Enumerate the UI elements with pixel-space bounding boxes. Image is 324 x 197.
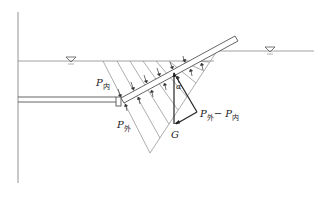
horizontal-slab bbox=[18, 97, 121, 106]
label-p-diff-sub1: 外 bbox=[207, 114, 214, 122]
label-p-diff-sep: − bbox=[214, 108, 226, 119]
label-alpha: α bbox=[176, 83, 181, 91]
label-p-outer-main: P bbox=[117, 119, 124, 130]
hinge-block bbox=[116, 97, 121, 106]
label-p-inner-sub: 内 bbox=[103, 83, 110, 91]
water-level-left-icon bbox=[66, 57, 76, 64]
label-g: G bbox=[171, 130, 179, 140]
label-p-inner-main: P bbox=[96, 77, 103, 88]
label-p-diff-sub2: 内 bbox=[232, 114, 239, 122]
water-level-right-icon bbox=[265, 47, 275, 54]
force-triangle bbox=[173, 72, 198, 124]
label-p-inner: P内 bbox=[96, 78, 110, 91]
inclined-slab bbox=[121, 36, 238, 103]
pressure-diagram bbox=[0, 0, 324, 197]
label-p-outer: P外 bbox=[117, 120, 131, 133]
resultant-pressure-vector bbox=[174, 73, 197, 112]
label-p-diff: P外− P内 bbox=[200, 109, 239, 122]
label-p-outer-sub: 外 bbox=[124, 125, 131, 133]
label-p-diff-main1: P bbox=[200, 108, 207, 119]
